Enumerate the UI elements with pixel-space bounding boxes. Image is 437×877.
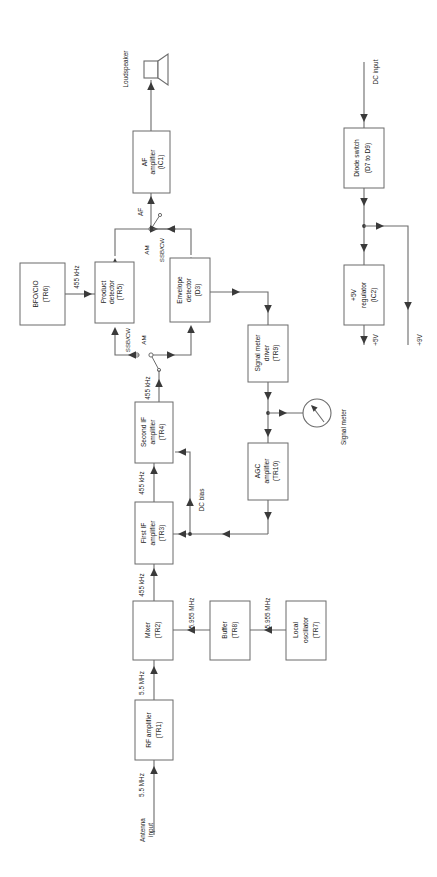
block-diagram-canvas: Loudspeaker AF amplifier (IC1) AF SSB/CW… [0,0,437,877]
arrow-am-lower [167,351,175,359]
ssbcw-lower-label: SSB/CW [124,328,131,353]
wire-envdet-to-smdriver [210,292,268,325]
arrow-mixer-to-firstif [150,568,158,576]
sm-driver-line3: (TR9) [272,345,280,362]
local-oscillator-block[interactable]: Local oscillator (TR7) [286,601,326,660]
first-if-line3: (TR3) [158,525,166,542]
buffer-block[interactable]: Buffer (TR8) [210,601,250,660]
bfo-wire-label: 455 kHz [73,265,80,288]
reg-line2: regulator [360,281,368,308]
analog-meter-icon [303,399,331,427]
loudspeaker-icon [144,54,168,85]
second-if-line2: amplifier [149,419,157,445]
arrow-firstif-to-secondif [150,466,158,474]
arrow-agc-feed [222,530,230,538]
product-detector-line3: (TR5) [116,284,124,301]
rf-amp-line1: RF amplifier [145,711,153,747]
five-volt-regulator-block[interactable]: +5V regulator (IC2) [344,265,384,325]
bfo-cio-line2: (TR6) [42,286,50,303]
rail-5v-label: +5V [372,333,379,345]
reg-line3: (IC2) [370,288,378,303]
af-wire-label: AF [137,208,144,216]
signal-meter-driver-block[interactable]: Signal meter driver (TR9) [248,325,288,382]
arrow-into-envdet [187,325,195,333]
diode-switch-block[interactable]: Diode switch (D7 to D9) [344,128,384,188]
ssbcw-upper-label: SSB/CW [158,238,165,263]
firstif-to-secondif-label: 455 kHz [138,471,145,494]
envelope-detector-line3: (D3) [194,284,202,297]
diode-switch-line1: Diode switch [353,139,360,177]
second-if-line3: (TR4) [158,424,166,441]
second-if-line1: Second IF [140,417,147,447]
rf-amplifier-block[interactable]: RF amplifier (TR1) [135,700,173,760]
agc-line1: AGC [254,464,261,479]
secondif-out-label: 455 kHz [144,376,151,399]
agc-amplifier-block[interactable]: AGC amplifier (TR10) [248,443,288,500]
arrow-secondif-up [155,379,163,387]
buffer-to-mixer-label: 5.955 MHz [188,598,195,629]
arrow-agc-to-firstif [178,530,186,538]
antenna-freq-label: 5.5 MHz [138,773,145,797]
af-amplifier-line2: amplifier [149,149,157,175]
sm-driver-line2: driver [263,344,270,361]
arrow-antenna-to-rfamp [150,766,158,774]
arrow-to-signal-meter [279,409,287,417]
dc-input-label: DC input [372,59,380,84]
arrow-9v-down [404,302,412,310]
localosc-line2: oscillator [302,616,309,643]
dc-bias-label: DC bias [198,489,205,512]
arrow-5v-out [360,336,368,344]
af-amplifier-block[interactable]: AF amplifier (IC1) [133,131,170,193]
antenna-input-line2: input [147,823,155,837]
af-amplifier-line3: (IC1) [157,155,165,170]
arrow-dcbias-up [186,498,194,506]
signal-meter-label: Signal meter [340,408,348,445]
localosc-line3: (TR7) [312,622,320,639]
envelope-detector-line1: Envelope [176,276,184,304]
toggle-switch-icon-lower[interactable] [135,353,161,372]
arrow-af-to-afamp [147,196,155,204]
junction-dot-dcbias [188,532,192,536]
arrow-dcbias-to-secondif [178,448,186,456]
loudspeaker-label: Loudspeaker [122,50,130,88]
rf-to-mixer-label: 5.5 MHz [138,671,145,695]
agc-line2: amplifier [263,458,271,484]
localosc-to-buffer-label: 5.955 MHz [264,598,271,629]
product-detector-block[interactable]: Product detector (TR5) [95,262,134,323]
buffer-line1: Buffer [221,620,228,638]
diode-switch-line2: (D7 to D9) [364,143,372,173]
product-detector-line1: Product [100,280,107,303]
arrow-smdriver-down [264,392,272,400]
second-if-amplifier-block[interactable]: Second IF amplifier (TR4) [135,402,173,463]
arrow-down-to-smdriver [264,305,272,313]
arrow-rf-to-mixer [150,666,158,674]
envelope-detector-line2: detector [185,277,192,302]
arrow-branch-9v [376,222,384,230]
am-upper-label: AM [143,245,150,254]
mixer-line2: (TR2) [154,622,162,639]
arrow-diodesw-out [360,198,368,206]
wire-lower-switch-to-envdet [153,327,191,355]
first-if-line2: amplifier [149,520,157,546]
reg-line1: +5V [350,288,357,301]
envelope-detector-block[interactable]: Envelope detector (D3) [170,258,210,322]
mixer-block[interactable]: Mixer (TR2) [133,601,173,660]
rf-amp-line2: (TR1) [155,722,163,739]
arrow-bfo-to-proddet [84,290,92,298]
agc-line3: (TR10) [272,461,280,482]
first-if-line1: First IF [140,523,147,544]
arrow-agc-out [264,512,272,520]
first-if-amplifier-block[interactable]: First IF amplifier (TR3) [135,502,173,564]
arrow-dcinput [360,114,368,122]
product-detector-line2: detector [108,279,115,304]
arrow-node-to-agc [264,429,272,437]
arrow-envdet-right [232,288,240,296]
localosc-line1: Local [292,622,299,638]
bfo-cio-block[interactable]: BFO/CIO (TR6) [20,263,65,325]
sm-driver-line1: Signal meter [254,334,262,372]
bfo-cio-line1: BFO/CIO [32,280,39,307]
wire-dc-bias-to-secondif [175,452,190,534]
af-amplifier-line1: AF [141,158,148,166]
receiver-block-diagram: Loudspeaker AF amplifier (IC1) AF SSB/CW… [0,0,437,877]
mixer-line1: Mixer [144,621,151,638]
